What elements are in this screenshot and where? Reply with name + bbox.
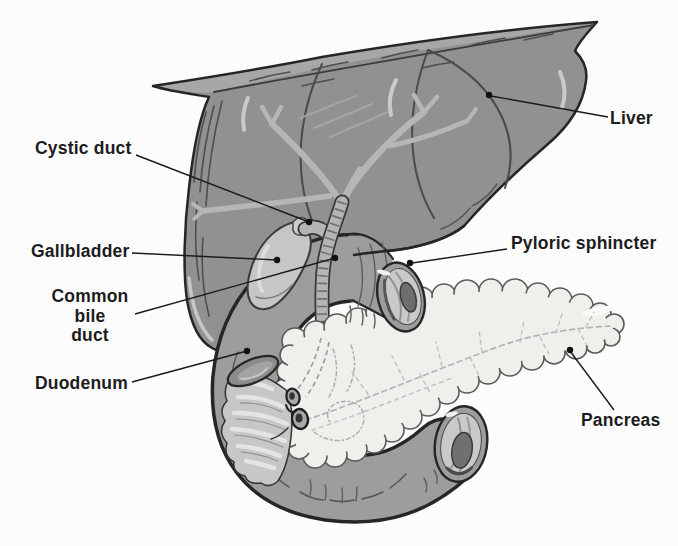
cystic-duct-pointer-dot	[306, 219, 312, 225]
pancreas-pointer-dot	[567, 347, 573, 353]
duodenum-pointer-dot	[244, 348, 250, 354]
label-gallbladder: Gallbladder	[31, 242, 129, 261]
label-duodenum: Duodenum	[35, 374, 128, 393]
anatomy-figure-biliary-system: Cystic duct Gallbladder Common bile duct…	[0, 0, 678, 546]
common-bile-duct-pointer-dot	[332, 255, 338, 261]
pyloric-sphincter-leader-line	[412, 249, 507, 263]
label-pyloric-sphincter: Pyloric sphincter	[511, 234, 656, 253]
label-pancreas: Pancreas	[581, 411, 660, 430]
label-cystic-duct: Cystic duct	[35, 139, 132, 158]
gallbladder-pointer-dot	[274, 257, 280, 263]
pyloric-sphincter-pointer-dot	[407, 260, 413, 266]
liver-pointer-dot	[486, 92, 492, 98]
label-liver: Liver	[610, 109, 653, 128]
pancreas-leader-line	[570, 351, 614, 410]
label-common-bile-duct-line1: Common	[40, 287, 140, 307]
label-common-bile-duct: Common bile duct	[40, 287, 140, 346]
label-common-bile-duct-line2: bile	[40, 307, 140, 327]
anatomy-illustration	[0, 0, 678, 546]
label-common-bile-duct-line3: duct	[40, 326, 140, 346]
